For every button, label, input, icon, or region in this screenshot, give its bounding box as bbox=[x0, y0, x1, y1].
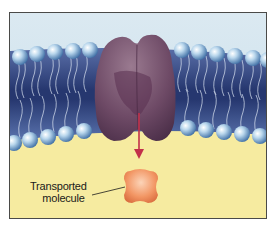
transported-molecule bbox=[124, 169, 158, 203]
molecule-label-line1: Transported bbox=[30, 180, 87, 192]
diagram-frame: Transported molecule bbox=[9, 12, 267, 219]
molecule-label-line2: molecule bbox=[30, 192, 87, 204]
molecule-label: Transported molecule bbox=[30, 180, 87, 204]
transport-protein bbox=[95, 35, 176, 141]
